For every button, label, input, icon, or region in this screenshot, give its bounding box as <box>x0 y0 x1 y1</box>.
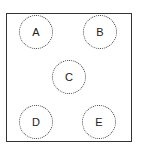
node-b: B <box>83 15 117 49</box>
node-label: A <box>32 26 39 38</box>
node-e: E <box>82 105 116 139</box>
node-label: E <box>95 116 102 128</box>
node-c: C <box>52 60 86 94</box>
node-label: B <box>96 26 103 38</box>
node-label: D <box>32 116 40 128</box>
node-label: C <box>65 71 73 83</box>
node-a: A <box>19 15 53 49</box>
node-d: D <box>19 105 53 139</box>
